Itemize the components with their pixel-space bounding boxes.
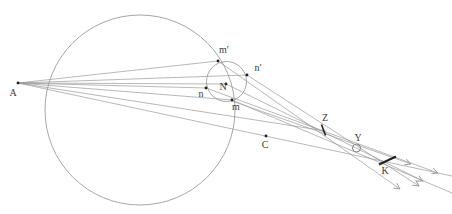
point-label-Y: Y [354,132,361,143]
diagram-svg: Am′n′nNmCZYK [0,0,452,214]
point-dot-n [205,87,208,90]
refracted-nprime [247,75,419,186]
refracted-m-through-Y [232,101,411,164]
large-sphere-circle [45,15,235,205]
figure-canvas: Am′n′nNmCZYK [0,0,452,214]
point-label-n-prime: n′ [254,62,261,73]
point-dot-m-prime [217,60,220,63]
point-label-m: m [232,101,240,112]
point-label-m-prime: m′ [219,44,229,55]
point-dot-n-prime [246,74,249,77]
point-label-n: n [199,88,204,99]
point-label-Z: Z [322,112,328,123]
point-dot-A [17,82,20,85]
point-label-C: C [262,139,269,150]
ray-A-Z [18,83,326,131]
diagram-content: Am′n′nNmCZYK [9,15,452,205]
point-label-N: N [219,81,226,92]
point-label-A: A [9,87,17,98]
axis-A-C [18,83,452,176]
point-dot-C [265,135,268,138]
point-label-K: K [381,165,389,176]
